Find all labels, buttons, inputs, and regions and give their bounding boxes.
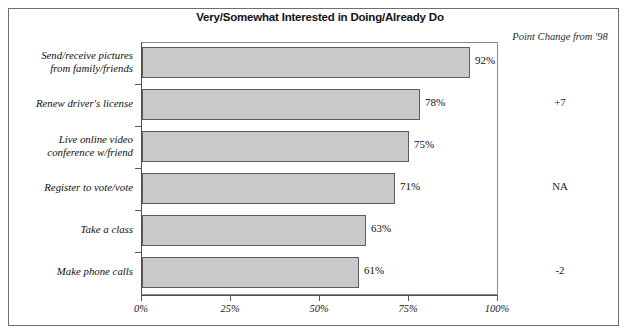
category-label: Send/receive pictures from family/friend… xyxy=(10,49,133,74)
bar-value-label: 92% xyxy=(475,54,495,66)
category-label: Register to vote/vote xyxy=(10,181,133,194)
category-label: Live online video conference w/friend xyxy=(10,133,133,158)
category-label-line1: Send/receive pictures xyxy=(10,49,133,62)
bar[interactable] xyxy=(142,131,409,162)
chart-row: Send/receive pictures from family/friend… xyxy=(0,42,632,84)
chart-row: Take a class 63% -6 xyxy=(0,210,632,252)
y-axis-tick xyxy=(135,252,142,253)
bar[interactable] xyxy=(142,257,359,288)
x-axis-label-0: 0% xyxy=(111,303,171,314)
x-axis-tick xyxy=(141,295,142,301)
category-label-line1: Take a class xyxy=(10,223,133,236)
bar-value-label: 61% xyxy=(364,264,384,276)
chart-title: Very/Somewhat Interested in Doing/Alread… xyxy=(140,11,500,23)
bar-value-label: 75% xyxy=(414,138,434,150)
bar[interactable] xyxy=(142,215,366,246)
x-axis-tick xyxy=(497,295,498,301)
x-axis-tick xyxy=(408,295,409,301)
bar-track: 75% xyxy=(142,126,498,168)
chart-row: Live online video conference w/friend 75… xyxy=(0,126,632,168)
bar-track: 92% xyxy=(142,42,498,84)
bar[interactable] xyxy=(142,47,470,78)
bar[interactable] xyxy=(142,173,395,204)
bar-track: 78% xyxy=(142,84,498,126)
chart-row: Register to vote/vote 71% 7* xyxy=(0,168,632,210)
x-axis-label-25: 25% xyxy=(200,303,260,314)
bar-value-label: 71% xyxy=(400,180,420,192)
x-axis-label-75: 75% xyxy=(378,303,438,314)
bar-track: 63% xyxy=(142,210,498,252)
bar-value-label: 78% xyxy=(425,96,445,108)
category-label: Take a class xyxy=(10,223,133,236)
y-axis-tick xyxy=(135,168,142,169)
x-axis-tick xyxy=(230,295,231,301)
x-axis-tick xyxy=(319,295,320,301)
category-label-line1: Live online video xyxy=(10,133,133,146)
bar-track: 71% xyxy=(142,168,498,210)
y-axis-tick xyxy=(135,126,142,127)
category-label-line2: from family/friends xyxy=(10,62,133,75)
bar[interactable] xyxy=(142,89,420,120)
category-label: Renew driver's license xyxy=(10,97,133,110)
category-label: Make phone calls xyxy=(10,265,133,278)
category-label-line1: Register to vote/vote xyxy=(10,181,133,194)
x-axis-label-50: 50% xyxy=(289,303,349,314)
chart-row: Renew driver's license 78% NA xyxy=(0,84,632,126)
chart-row: Make phone calls 61% -4 xyxy=(0,252,632,294)
point-change-column-header: Point Change from '98 xyxy=(505,31,615,42)
bar-track: 61% xyxy=(142,252,498,294)
category-label-line1: Make phone calls xyxy=(10,265,133,278)
x-axis-label-100: 100% xyxy=(467,303,527,314)
category-label-line1: Renew driver's license xyxy=(10,97,133,110)
y-axis-tick xyxy=(135,84,142,85)
y-axis-tick xyxy=(135,210,142,211)
chart-figure: Very/Somewhat Interested in Doing/Alread… xyxy=(0,0,632,335)
category-label-line2: conference w/friend xyxy=(10,146,133,159)
bar-value-label: 63% xyxy=(371,222,391,234)
